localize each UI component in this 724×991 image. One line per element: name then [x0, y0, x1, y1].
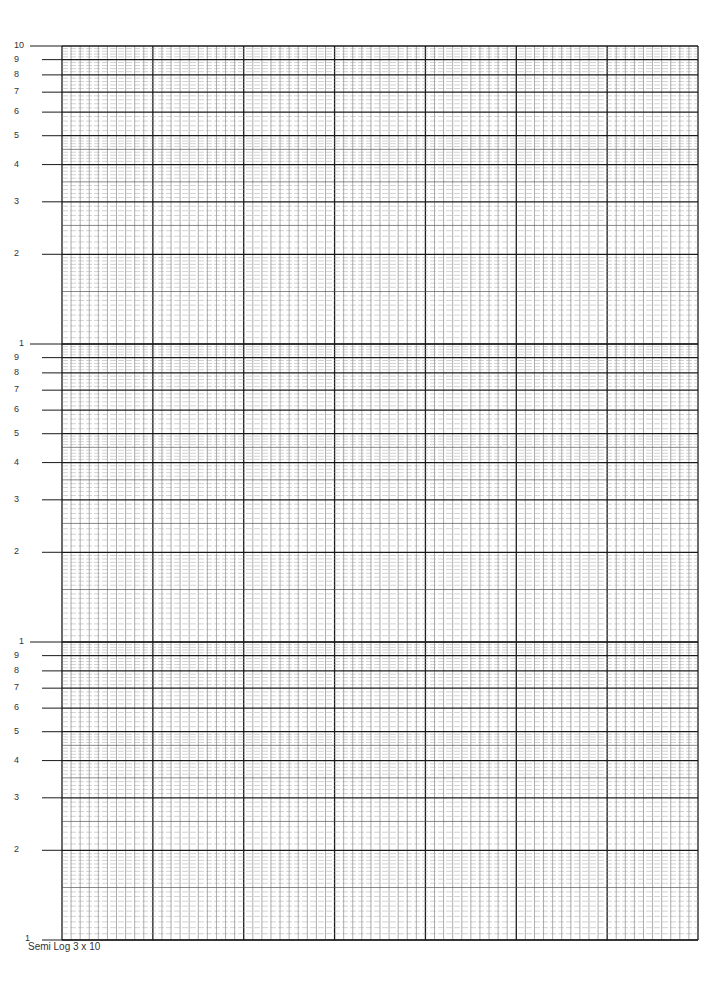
y-axis-label: 4 — [14, 457, 36, 467]
y-axis-label: 7 — [14, 384, 36, 394]
y-axis-label: 1 — [8, 636, 24, 646]
y-axis-label: 9 — [14, 352, 36, 362]
y-axis-label: 2 — [14, 546, 36, 556]
semi-log-graph-paper: 10987654321987654321987654321 Semi Log 3… — [0, 0, 724, 991]
y-axis-label: 5 — [14, 428, 36, 438]
y-axis-label: 9 — [14, 650, 36, 660]
y-axis-label: 3 — [14, 196, 36, 206]
y-axis-label: 3 — [14, 494, 36, 504]
y-axis-label: 8 — [14, 665, 36, 675]
y-axis-label: 6 — [14, 404, 36, 414]
y-axis-label: 4 — [14, 755, 36, 765]
y-axis-label: 7 — [14, 682, 36, 692]
y-axis-label: 4 — [14, 159, 36, 169]
y-axis-label: 2 — [14, 248, 36, 258]
y-axis-label: 6 — [14, 106, 36, 116]
y-axis-label: 3 — [14, 792, 36, 802]
y-axis-label: 2 — [14, 844, 36, 854]
y-axis-label: 7 — [14, 86, 36, 96]
y-axis-label: 9 — [14, 54, 36, 64]
y-axis-label: 8 — [14, 69, 36, 79]
y-axis-label: 6 — [14, 702, 36, 712]
y-axis-label: 5 — [14, 130, 36, 140]
y-axis-label: 8 — [14, 367, 36, 377]
paper-caption: Semi Log 3 x 10 — [28, 941, 100, 952]
log-grid — [0, 0, 724, 991]
y-axis-label: 10 — [8, 40, 24, 50]
y-axis-label: 5 — [14, 726, 36, 736]
y-axis-label: 1 — [8, 338, 24, 348]
